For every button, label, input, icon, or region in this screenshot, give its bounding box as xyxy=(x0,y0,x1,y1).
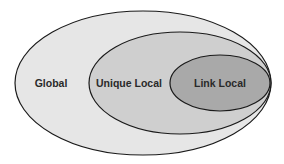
diagram-canvas: Global Unique Local Link Local xyxy=(0,0,284,164)
global-label: Global xyxy=(35,77,68,89)
nested-ellipses-diagram: Global Unique Local Link Local xyxy=(0,0,284,164)
link-local-label: Link Local xyxy=(194,77,246,89)
unique-local-label: Unique Local xyxy=(96,77,162,89)
